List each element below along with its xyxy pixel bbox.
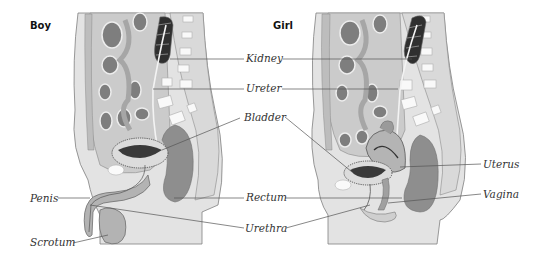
girl-figure (312, 13, 466, 244)
girl-pubic-bone (335, 180, 351, 190)
label-vagina: Vagina (483, 188, 519, 200)
label-urethra: Urethra (245, 222, 287, 234)
label-kidney: Kidney (246, 52, 283, 64)
girl-intestine (340, 21, 360, 45)
label-ureter: Ureter (246, 82, 282, 94)
girl-intestine (356, 130, 368, 144)
girl-intestine (339, 133, 351, 147)
label-uterus: Uterus (483, 158, 519, 170)
boy-vertebra (178, 65, 189, 72)
boy-scrotum (99, 208, 126, 244)
label-rectum: Rectum (246, 191, 287, 203)
boy-vertebra (182, 32, 192, 38)
boy-intestine (99, 84, 111, 100)
boy-intestine (135, 108, 149, 120)
boy-intestine (133, 13, 147, 31)
boy-intestine (100, 112, 112, 130)
girl-intestine (373, 15, 387, 33)
girl-vertebra (422, 64, 433, 71)
label-bladder: Bladder (244, 111, 286, 123)
label-penis: Penis (30, 192, 58, 204)
girl-vertebra (424, 80, 436, 88)
girl-intestine (336, 85, 348, 101)
boy-intestine (102, 56, 118, 74)
label-scrotum: Scrotum (30, 236, 75, 248)
boy-vertebra (180, 48, 191, 55)
girl-title: Girl (273, 20, 293, 31)
boy-pubic-bone (108, 165, 124, 175)
boy-vertebra (162, 78, 172, 86)
girl-intestine (373, 106, 387, 118)
boy-vertebra (183, 16, 193, 22)
boy-figure (74, 13, 222, 244)
boy-intestine (102, 22, 122, 48)
boy-title: Boy (30, 20, 51, 31)
girl-vertebra (421, 48, 432, 55)
boy-vertebra (180, 80, 192, 88)
